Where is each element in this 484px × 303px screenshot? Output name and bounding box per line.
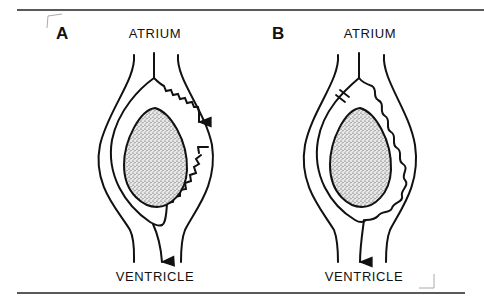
corner-mark-bottom-right xyxy=(419,274,434,288)
ventricular-exit-a xyxy=(153,224,162,262)
panel-a-ventricle-label: VENTRICLE xyxy=(116,269,194,284)
panel-b-letter: B xyxy=(272,24,284,44)
panel-a-letter: A xyxy=(56,24,68,44)
panel-b-atrium-label: ATRIUM xyxy=(344,26,396,41)
reentry-diagram xyxy=(0,0,484,303)
panel-a-atrium-label: ATRIUM xyxy=(129,26,181,41)
ventricular-exit-b xyxy=(360,220,364,262)
conduction-block-a xyxy=(198,147,208,153)
stippled-tissue-b xyxy=(330,108,391,207)
panel-b-ventricle-label: VENTRICLE xyxy=(325,269,403,284)
stippled-tissue-a xyxy=(124,108,187,207)
